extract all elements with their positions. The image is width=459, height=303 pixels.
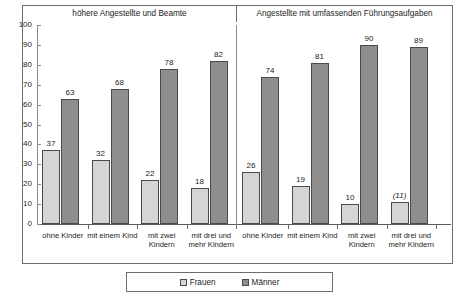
x-axis-category-label: mit einem Kind [285, 231, 339, 240]
panel-title-band: höhere Angestellte und Beamte Angestellt… [23, 6, 452, 22]
y-axis-tick-labels: 0102030405060708090100 [5, 25, 32, 225]
legend-swatch-maenner-icon [242, 279, 249, 286]
y-axis-tick-label: 0 [28, 219, 32, 229]
bar-maenner [210, 61, 228, 224]
x-axis-line [37, 224, 451, 225]
bar-group: 3268 [88, 25, 138, 224]
x-axis-category-label: mit drei und mehr Kindern [384, 231, 438, 250]
bar-frauen [292, 186, 310, 224]
y-axis-tick-label: 100 [19, 20, 32, 30]
y-axis-tick-label: 80 [23, 60, 32, 70]
x-axis-category-label: ohne Kinder [236, 231, 290, 240]
bar-group: (11)89 [387, 25, 437, 224]
bar-group: 3763 [38, 25, 88, 224]
bar-value-label: 68 [106, 78, 134, 88]
x-axis-category-label: ohne Kinder [36, 231, 90, 240]
bar-maenner [160, 69, 178, 224]
bar-maenner [61, 99, 79, 224]
x-axis-tick-mark [137, 225, 138, 229]
y-axis-tick-label: 50 [23, 120, 32, 130]
x-axis-tick-mark [88, 225, 89, 229]
bar-maenner [111, 89, 129, 224]
y-axis-tick-label: 30 [23, 159, 32, 169]
y-axis-tick-label: 60 [23, 100, 32, 110]
x-axis-tick-mark [436, 225, 437, 229]
panel-title-left: höhere Angestellte und Beamte [23, 7, 236, 20]
legend: Frauen Männer [126, 272, 333, 292]
x-axis-tick-mark [187, 225, 188, 229]
bar-frauen [141, 180, 159, 224]
y-axis-tick-label: 90 [23, 40, 32, 50]
x-axis-category-label: mit drei und mehr Kindern [184, 231, 238, 250]
bar-frauen [391, 202, 409, 224]
bar-frauen [242, 172, 260, 224]
x-axis-tick-mark [236, 225, 237, 229]
panel-title-right: Angestellte mit umfassenden Führungsaufg… [237, 7, 452, 20]
bar-group: 2278 [137, 25, 187, 224]
bar-maenner [410, 47, 428, 224]
x-axis-tick-mark [387, 225, 388, 229]
legend-item-maenner: Männer [242, 278, 280, 287]
x-axis-category-label: mit zwei Kindern [335, 231, 389, 250]
bar-frauen [42, 150, 60, 224]
legend-swatch-frauen-icon [180, 279, 187, 286]
bar-value-label: 63 [56, 88, 84, 98]
bar-chart-figure: höhere Angestellte und Beamte Angestellt… [0, 0, 459, 303]
bar-value-label: 89 [405, 36, 433, 46]
bar-maenner [261, 77, 279, 224]
bar-value-label: 78 [155, 58, 183, 68]
plot-area: 3763326822781882267419811090(11)89 [37, 25, 450, 224]
y-axis-tick-mark [37, 224, 41, 225]
bar-value-label: 82 [205, 50, 233, 60]
y-axis-tick-label: 10 [23, 199, 32, 209]
bar-group: 1882 [187, 25, 237, 224]
y-axis-tick-label: 40 [23, 139, 32, 149]
x-axis-category-label: mit zwei Kindern [135, 231, 189, 250]
bar-frauen [341, 204, 359, 224]
panel-title-separator [236, 5, 237, 22]
legend-item-frauen: Frauen [180, 278, 216, 287]
bar-maenner [360, 45, 378, 224]
x-axis-tick-mark [288, 225, 289, 229]
bar-value-label: 74 [256, 66, 284, 76]
bar-value-label: 81 [306, 52, 334, 62]
y-axis-tick-label: 70 [23, 80, 32, 90]
bar-group: 1981 [288, 25, 338, 224]
bar-maenner [311, 63, 329, 224]
x-axis-category-label: mit einem Kind [85, 231, 139, 240]
bar-group: 2674 [238, 25, 288, 224]
bar-frauen [191, 188, 209, 224]
x-axis-tick-mark [337, 225, 338, 229]
y-axis-tick-label: 20 [23, 179, 32, 189]
legend-label-frauen: Frauen [190, 278, 216, 287]
bar-value-label: 90 [355, 34, 383, 44]
bar-group: 1090 [337, 25, 387, 224]
bar-frauen [92, 160, 110, 224]
legend-label-maenner: Männer [252, 278, 280, 287]
